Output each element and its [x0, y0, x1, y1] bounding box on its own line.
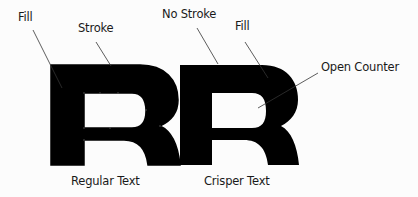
leader-stroke	[96, 42, 111, 66]
callout-stroke: Stroke	[78, 22, 113, 35]
caption-regular-text: Regular Text	[71, 175, 140, 188]
leader-fill-left	[33, 30, 62, 88]
callout-open-counter: Open Counter	[321, 61, 399, 74]
glyph-r-regular	[51, 65, 180, 165]
diagram-canvas	[0, 0, 418, 197]
callout-fill-left: Fill	[18, 11, 33, 24]
callout-fill-right: Fill	[235, 20, 250, 33]
callout-no-stroke: No Stroke	[162, 8, 216, 21]
typography-diagram: Fill Stroke No Stroke Fill Open Counter …	[0, 0, 418, 197]
caption-crisper-text: Crisper Text	[204, 175, 270, 188]
glyph-r-crisper	[180, 65, 299, 165]
leader-no-stroke	[197, 28, 218, 64]
